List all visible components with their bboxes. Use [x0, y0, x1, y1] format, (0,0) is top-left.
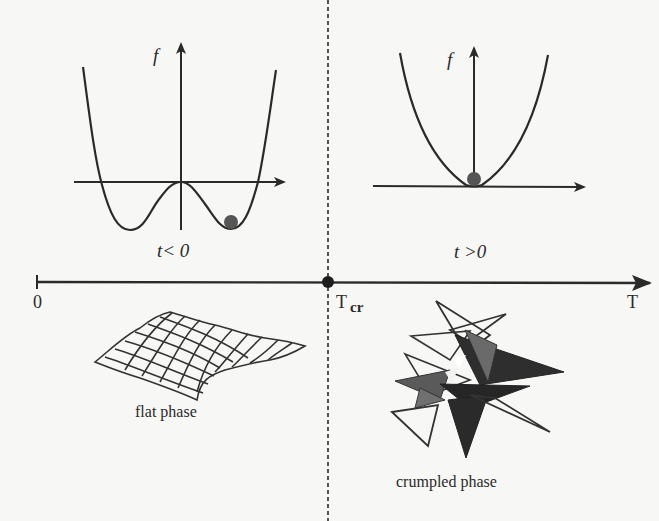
critical-temperature-subscript: cr [350, 299, 363, 315]
critical-temperature-label: Tcr [336, 292, 363, 316]
ball-icon [467, 172, 481, 186]
left-potential-plot [74, 44, 284, 230]
critical-point-dot [322, 276, 334, 288]
phase-transition-diagram: f t< 0 f t >0 0 Tcr T flat phase crumple… [0, 0, 659, 521]
diagram-canvas [0, 0, 659, 521]
flat-phase-label: flat phase [135, 403, 197, 421]
left-condition-label: t< 0 [157, 240, 189, 262]
double-well-curve [83, 67, 276, 230]
critical-temperature-T: T [336, 292, 347, 312]
left-f-axis-label: f [153, 45, 158, 67]
right-potential-plot [373, 48, 584, 187]
origin-label: 0 [33, 292, 42, 313]
ball-icon [224, 215, 238, 229]
flat-membrane-illustration [95, 312, 305, 400]
crumpled-phase-label: crumpled phase [396, 473, 497, 491]
crumpled-membrane-illustration [392, 301, 564, 458]
right-condition-label: t >0 [454, 241, 486, 263]
temperature-axis [37, 275, 650, 289]
temperature-end-label: T [627, 292, 638, 313]
right-f-axis-label: f [447, 49, 452, 71]
